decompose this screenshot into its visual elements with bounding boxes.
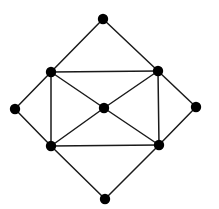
node-left: [10, 104, 20, 114]
graph-diagram: [0, 0, 219, 209]
node-bottom: [100, 194, 110, 204]
edge-lower-left-center: [51, 108, 104, 146]
edge-lower-left-lower-right: [51, 145, 159, 146]
edge-upper-right-lower-right: [158, 71, 159, 145]
edge-upper-left-left: [15, 72, 51, 109]
edge-right-lower-right: [159, 107, 196, 145]
edge-left-lower-left: [15, 109, 51, 146]
node-lower-right: [154, 140, 164, 150]
node-lower-left: [46, 141, 56, 151]
node-right: [191, 102, 201, 112]
edge-lower-left-bottom: [51, 146, 105, 199]
edge-upper-left-center: [51, 72, 104, 108]
graph-nodes: [10, 14, 201, 204]
node-center: [99, 103, 109, 113]
edge-upper-right-right: [158, 71, 196, 107]
edge-lower-right-bottom: [105, 145, 159, 199]
edge-top-upper-left: [51, 19, 103, 72]
edge-upper-right-center: [104, 71, 158, 108]
node-upper-right: [153, 66, 163, 76]
edge-top-upper-right: [103, 19, 158, 71]
edge-upper-left-upper-right: [51, 71, 158, 72]
node-top: [98, 14, 108, 24]
node-upper-left: [46, 67, 56, 77]
edge-lower-right-center: [104, 108, 159, 145]
